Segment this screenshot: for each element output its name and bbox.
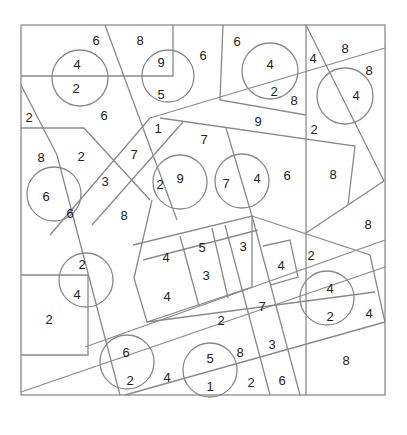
region-number: 2 bbox=[45, 313, 52, 326]
region-number: 2 bbox=[72, 82, 79, 95]
region-number: 6 bbox=[283, 169, 290, 182]
region-number: 4 bbox=[309, 52, 316, 65]
region-number: 2 bbox=[78, 258, 85, 271]
region-number: 1 bbox=[206, 380, 213, 393]
region-number: 9 bbox=[176, 172, 183, 185]
region-number: 6 bbox=[100, 109, 107, 122]
region-number: 4 bbox=[73, 58, 80, 71]
region-number: 2 bbox=[310, 123, 317, 136]
region-number: 8 bbox=[290, 94, 297, 107]
region-number: 8 bbox=[329, 168, 336, 181]
region-number: 8 bbox=[365, 64, 372, 77]
region-number: 2 bbox=[126, 374, 133, 387]
region-number: 6 bbox=[199, 49, 206, 62]
region-number: 6 bbox=[278, 374, 285, 387]
region-number: 4 bbox=[163, 371, 170, 384]
region-number: 8 bbox=[37, 151, 44, 164]
region-number: 4 bbox=[253, 172, 260, 185]
region-number: 4 bbox=[277, 259, 284, 272]
region-number: 8 bbox=[341, 42, 348, 55]
puzzle-lines bbox=[0, 0, 407, 435]
region-number: 7 bbox=[130, 148, 137, 161]
region-number: 4 bbox=[266, 58, 273, 71]
region-number: 4 bbox=[365, 307, 372, 320]
circle-region bbox=[59, 253, 113, 307]
region-number: 3 bbox=[268, 338, 275, 351]
region-number: 8 bbox=[236, 346, 243, 359]
region-number: 2 bbox=[270, 85, 277, 98]
region-number: 2 bbox=[217, 314, 224, 327]
region-number: 6 bbox=[122, 346, 129, 359]
region-number: 2 bbox=[247, 376, 254, 389]
region-number: 5 bbox=[157, 88, 164, 101]
region-number: 6 bbox=[42, 190, 49, 203]
region-number: 4 bbox=[352, 89, 359, 102]
region-number: 9 bbox=[157, 56, 164, 69]
region-number: 4 bbox=[73, 288, 80, 301]
region-number: 8 bbox=[136, 34, 143, 47]
region-number: 3 bbox=[202, 269, 209, 282]
region-number: 4 bbox=[163, 290, 170, 303]
puzzle-diagram: 6864295642848842619278273297468668845342… bbox=[0, 0, 407, 435]
region-number: 5 bbox=[206, 352, 213, 365]
region-number: 2 bbox=[326, 310, 333, 323]
region-number: 2 bbox=[156, 178, 163, 191]
region-number: 7 bbox=[258, 300, 265, 313]
region-number: 8 bbox=[120, 209, 127, 222]
region-number: 7 bbox=[200, 133, 207, 146]
region-number: 8 bbox=[342, 354, 349, 367]
region-number: 6 bbox=[233, 35, 240, 48]
region-number: 6 bbox=[66, 207, 73, 220]
region-number: 3 bbox=[101, 175, 108, 188]
region-number: 7 bbox=[222, 177, 229, 190]
region-number: 6 bbox=[92, 34, 99, 47]
region-number: 4 bbox=[326, 282, 333, 295]
region-number: 2 bbox=[77, 150, 84, 163]
region-number: 5 bbox=[198, 241, 205, 254]
region-number: 2 bbox=[25, 111, 32, 124]
region-number: 4 bbox=[162, 251, 169, 264]
region-number: 8 bbox=[364, 218, 371, 231]
region-number: 1 bbox=[154, 122, 161, 135]
region-number: 9 bbox=[254, 115, 261, 128]
region-number: 2 bbox=[307, 249, 314, 262]
region-number: 3 bbox=[239, 240, 246, 253]
